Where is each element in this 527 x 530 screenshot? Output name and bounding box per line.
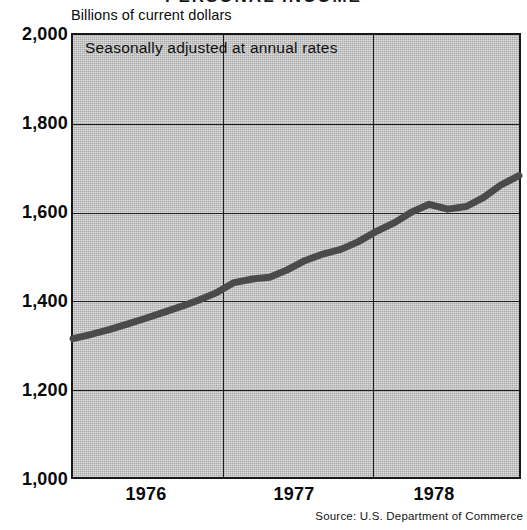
y-tick-1800: 1,800: [2, 113, 68, 134]
y-tick-1200: 1,200: [2, 380, 68, 401]
chart-plot-area: Seasonally adjusted at annual rates: [71, 33, 521, 479]
data-series-line: [73, 35, 519, 477]
y-axis-unit-label: Billions of current dollars: [71, 7, 232, 23]
x-tick-1977: 1977: [274, 484, 315, 505]
y-axis-labels: 2,000 1,800 1,600 1,400 1,200 1,000: [0, 0, 68, 530]
y-tick-1600: 1,600: [2, 202, 68, 223]
x-tick-1978: 1978: [414, 484, 455, 505]
x-tick-1976: 1976: [126, 484, 167, 505]
source-note: Source: U.S. Department of Commerce: [315, 510, 523, 522]
page-title: PERSONAL INCOME: [0, 0, 527, 3]
y-tick-2000: 2,000: [2, 24, 68, 45]
y-tick-1400: 1,400: [2, 291, 68, 312]
x-axis-labels: 1976 1977 1978: [0, 484, 527, 512]
